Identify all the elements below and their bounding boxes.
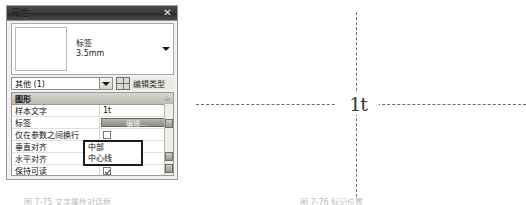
property-value[interactable] (100, 129, 173, 140)
property-group-header[interactable]: 图形 ☆ (12, 93, 173, 105)
type-selector-caret[interactable] (159, 24, 173, 74)
dropdown-option-horizontal[interactable]: 中心线 (85, 153, 141, 164)
table-row[interactable]: 标签 编辑... (12, 117, 173, 129)
chevron-down-icon (162, 47, 170, 51)
close-icon[interactable]: ✕ (162, 6, 173, 19)
type-family-label: 标签 (76, 39, 159, 49)
type-combo-box[interactable]: 其他 (1) (11, 77, 113, 90)
type-combo-dropdown-button[interactable] (99, 78, 112, 89)
property-name: 仅在参数之间换行 (12, 129, 100, 140)
scrollbar-thumb[interactable] (165, 119, 173, 128)
property-value[interactable]: 编辑... (100, 117, 173, 128)
dropdown-option-vertical[interactable]: 中部 (85, 142, 141, 153)
edit-type-label: 编辑类型 (133, 78, 165, 89)
property-name: 保持可读 (12, 165, 100, 176)
figure-caption-left: 图 7-75 文字属性对话框 (24, 196, 111, 205)
property-name: 标签 (12, 117, 100, 128)
type-selector-row: 其他 (1) 编辑类型 (11, 77, 174, 90)
type-preview-panel[interactable]: 标签 3.5mm (11, 23, 174, 75)
type-size-label: 3.5mm (76, 49, 159, 59)
property-grid-scrollbar[interactable] (164, 104, 173, 175)
scrollbar-thumb[interactable] (165, 152, 173, 161)
grid-icon (116, 77, 130, 90)
type-meta: 标签 3.5mm (67, 24, 159, 74)
scrollbar-thumb[interactable] (165, 164, 173, 173)
alignment-dropdown[interactable]: 中部 中心线 (83, 140, 143, 166)
edit-type-button[interactable]: 编辑类型 (116, 77, 174, 90)
checkbox-wrap-between-params[interactable] (103, 131, 111, 139)
type-thumbnail (15, 27, 67, 71)
property-value[interactable] (100, 165, 173, 176)
type-combo-value: 其他 (1) (15, 78, 45, 89)
property-value[interactable]: 1t (100, 105, 173, 116)
label-edit-button[interactable]: 编辑... (101, 118, 172, 127)
marker-position-diagram: 1t (196, 0, 526, 205)
properties-window: 属性 ✕ 标签 3.5mm 其他 (1) 编辑类型 图形 ☆ 样本文字 (6, 5, 178, 180)
table-row[interactable]: 样本文字 1t (12, 105, 173, 117)
property-group-label: 图形 (15, 93, 31, 104)
property-name: 样本文字 (12, 105, 100, 116)
window-titlebar[interactable]: 属性 ✕ (7, 6, 177, 21)
checkbox-keep-readable[interactable] (103, 167, 111, 175)
figure-caption-right: 图 7-76 标记位置 (300, 196, 363, 205)
table-row[interactable]: 保持可读 (12, 165, 173, 176)
window-title: 属性 (11, 7, 29, 19)
diagram-center-label: 1t (337, 93, 379, 115)
collapse-icon[interactable]: ☆ (164, 95, 170, 103)
chevron-down-icon (102, 82, 110, 86)
